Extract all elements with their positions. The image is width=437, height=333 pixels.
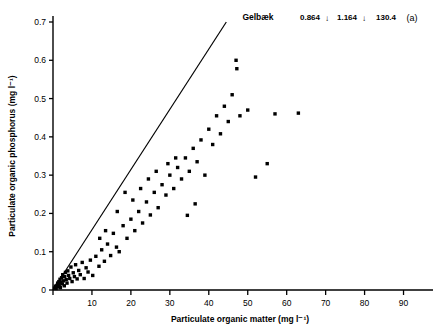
data-point <box>103 260 106 263</box>
data-point <box>116 210 119 213</box>
data-point <box>166 162 169 165</box>
data-point <box>72 271 75 274</box>
data-point <box>266 162 269 165</box>
regression-line <box>53 22 226 290</box>
data-point <box>60 276 63 279</box>
data-point <box>97 265 100 268</box>
y-tick-label-6: 0.6 <box>34 55 46 65</box>
stat-2: 1.164 <box>337 13 358 22</box>
x-tick-label-4: 40 <box>204 298 214 308</box>
data-point <box>223 105 226 108</box>
data-point <box>297 111 300 114</box>
chart-title: Gelbæk <box>242 12 273 22</box>
x-tick-label-5: 50 <box>243 298 253 308</box>
chart-container: 00.10.20.30.40.50.60.7102030405060708090… <box>0 0 437 333</box>
data-point <box>77 269 80 272</box>
data-point <box>65 281 68 284</box>
data-point <box>67 274 70 277</box>
data-point <box>70 280 73 283</box>
data-point <box>89 258 92 261</box>
data-point <box>125 237 128 240</box>
data-point <box>153 191 156 194</box>
data-point <box>63 275 66 278</box>
data-point <box>94 255 97 258</box>
data-point <box>156 206 159 209</box>
data-point <box>230 93 233 96</box>
data-point <box>188 170 191 173</box>
data-point <box>121 224 124 227</box>
data-point <box>65 278 68 281</box>
y-tick-label-0: 0 <box>41 285 46 295</box>
data-point <box>193 202 196 205</box>
data-point <box>227 120 230 123</box>
data-point <box>106 242 109 245</box>
data-point <box>98 237 101 240</box>
data-point <box>172 187 175 190</box>
stat-arrow-1: ↓ <box>325 14 329 23</box>
panel-label: (a) <box>407 13 418 23</box>
data-point <box>238 114 241 117</box>
data-point <box>129 217 132 220</box>
data-point <box>131 198 134 201</box>
data-point <box>141 221 144 224</box>
x-tick-label-2: 20 <box>126 298 136 308</box>
x-tick-label-6: 60 <box>282 298 292 308</box>
data-point <box>86 270 89 273</box>
y-tick-label-3: 0.3 <box>34 170 46 180</box>
scatter-plot: 00.10.20.30.40.50.60.7102030405060708090… <box>0 0 437 333</box>
data-point <box>160 183 163 186</box>
y-tick-label-1: 0.1 <box>34 247 46 257</box>
data-point <box>164 193 167 196</box>
data-point <box>199 138 202 141</box>
data-point <box>174 156 177 159</box>
data-point <box>139 187 142 190</box>
data-point <box>155 170 158 173</box>
data-point <box>273 112 276 115</box>
data-point <box>137 210 140 213</box>
data-points <box>53 59 300 291</box>
data-point <box>149 213 152 216</box>
data-point <box>112 232 115 235</box>
x-tick-label-8: 80 <box>360 298 370 308</box>
data-point <box>109 254 112 257</box>
stat-1: 0.864 <box>300 13 321 22</box>
y-tick-label-5: 0.5 <box>34 94 46 104</box>
data-point <box>195 160 198 163</box>
data-point <box>123 191 126 194</box>
data-point <box>74 263 77 266</box>
data-point <box>118 250 121 253</box>
y-tick-label-2: 0.2 <box>34 208 46 218</box>
data-point <box>147 177 150 180</box>
data-point <box>211 143 214 146</box>
data-point <box>180 177 183 180</box>
data-point <box>91 274 94 277</box>
data-point <box>104 229 107 232</box>
stat-3: 130.4 <box>376 13 397 22</box>
x-tick-label-9: 90 <box>399 298 409 308</box>
stat-arrow-2: ↓ <box>362 14 366 23</box>
data-point <box>82 277 85 280</box>
data-point <box>219 132 222 135</box>
data-point <box>168 173 171 176</box>
x-tick-label-1: 10 <box>87 298 97 308</box>
data-point <box>207 128 210 131</box>
data-point <box>81 261 84 264</box>
x-axis-title: Particulate organic matter (mg l⁻¹) <box>171 314 309 324</box>
data-point <box>234 59 237 62</box>
data-point <box>100 248 103 251</box>
data-point <box>215 114 218 117</box>
x-tick-label-7: 70 <box>321 298 331 308</box>
y-axis-title: Particulate organic phosphorus (mg l⁻¹) <box>7 75 17 236</box>
data-point <box>59 286 62 289</box>
data-point <box>184 156 187 159</box>
data-point <box>133 229 136 232</box>
x-tick-label-3: 30 <box>165 298 175 308</box>
data-point <box>203 173 206 176</box>
data-point <box>115 245 118 248</box>
data-point <box>79 273 82 276</box>
data-point <box>69 265 72 268</box>
y-tick-label-7: 0.7 <box>34 17 46 27</box>
data-point <box>192 147 195 150</box>
data-point <box>254 175 257 178</box>
data-point <box>186 214 189 217</box>
